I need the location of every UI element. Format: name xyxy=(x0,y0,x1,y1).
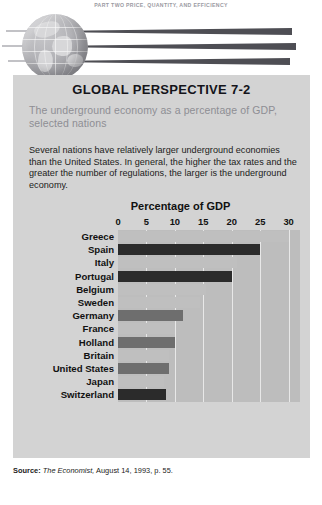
source-note: Source: The Economist, August 14, 1993, … xyxy=(13,466,310,475)
bar-label-germany: Germany xyxy=(13,309,114,322)
bar-germany xyxy=(118,310,183,321)
bar-britain xyxy=(118,350,169,361)
bar-row: Spain xyxy=(13,243,310,256)
banner-graphic xyxy=(0,12,322,82)
bar-row: Britain xyxy=(13,349,310,362)
box-body-text: Several nations have relatively larger u… xyxy=(29,145,297,191)
bar-label-sweden: Sweden xyxy=(13,296,114,309)
bar-row: Holland xyxy=(13,336,310,349)
x-axis-ticks: 051015202530 xyxy=(13,216,310,228)
x-tick-20: 20 xyxy=(220,216,244,227)
bar-row: Germany xyxy=(13,309,310,322)
box-subtitle: The underground economy as a percentage … xyxy=(29,104,295,130)
x-tick-25: 25 xyxy=(248,216,272,227)
bar-greece xyxy=(118,231,289,242)
x-tick-0: 0 xyxy=(106,216,130,227)
bar-sweden xyxy=(118,297,200,308)
bar-row: Sweden xyxy=(13,296,310,309)
bar-label-japan: Japan xyxy=(13,375,114,388)
bar-chart: Percentage of GDP 051015202530 GreeceSpa… xyxy=(13,200,310,415)
bar-row: Switzerland xyxy=(13,388,310,401)
bar-rows: GreeceSpainItalyPortugalBelgiumSwedenGer… xyxy=(13,230,310,402)
bar-row: Italy xyxy=(13,256,310,269)
bar-label-spain: Spain xyxy=(13,243,114,256)
x-tick-30: 30 xyxy=(277,216,301,227)
bar-label-france: France xyxy=(13,322,114,335)
bar-label-italy: Italy xyxy=(13,256,114,269)
source-publication: The Economist, xyxy=(43,466,95,475)
bar-row: France xyxy=(13,322,310,335)
bar-label-portugal: Portugal xyxy=(13,270,114,283)
bar-italy xyxy=(118,257,237,268)
bar-portugal xyxy=(118,271,232,282)
bar-row: Belgium xyxy=(13,283,310,296)
bar-row: United States xyxy=(13,362,310,375)
globe-icon xyxy=(22,14,88,80)
bar-label-holland: Holland xyxy=(13,336,114,349)
source-rest: August 14, 1993, p. 55. xyxy=(94,466,173,475)
bar-label-switzerland: Switzerland xyxy=(13,388,114,401)
bar-switzerland xyxy=(118,389,166,400)
bar-spain xyxy=(118,244,260,255)
bar-belgium xyxy=(118,284,206,295)
bar-label-belgium: Belgium xyxy=(13,283,114,296)
running-head: PART TWO PRICE, QUANTITY, AND EFFICIENCY xyxy=(0,0,322,10)
bar-row: Portugal xyxy=(13,270,310,283)
bar-united-states xyxy=(118,363,169,374)
box-title: GLOBAL PERSPECTIVE 7-2 xyxy=(13,82,310,97)
x-tick-15: 15 xyxy=(191,216,215,227)
bar-row: Greece xyxy=(13,230,310,243)
x-tick-5: 5 xyxy=(134,216,158,227)
global-perspective-box: GLOBAL PERSPECTIVE 7-2 The underground e… xyxy=(13,75,310,458)
bar-holland xyxy=(118,337,175,348)
source-label: Source: xyxy=(13,466,41,475)
bar-japan xyxy=(118,376,164,387)
bar-label-united-states: United States xyxy=(13,362,114,375)
bar-label-britain: Britain xyxy=(13,349,114,362)
bar-france xyxy=(118,323,175,334)
chart-title: Percentage of GDP xyxy=(13,200,310,212)
x-tick-10: 10 xyxy=(163,216,187,227)
bar-row: Japan xyxy=(13,375,310,388)
bar-label-greece: Greece xyxy=(13,230,114,243)
